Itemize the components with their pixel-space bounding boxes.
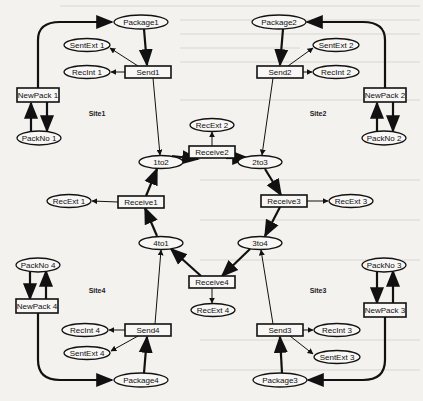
places: Package1 Package2 Package3 Package4 Sent… [16, 15, 406, 387]
svg-text:RecExt 4: RecExt 4 [197, 306, 230, 315]
place-packno2: PackNo 2 [362, 131, 406, 145]
svg-text:Package4: Package4 [123, 376, 159, 385]
svg-text:RecInt 3: RecInt 3 [322, 326, 352, 335]
svg-text:RecExt 3: RecExt 3 [335, 197, 368, 206]
svg-text:Receive1: Receive1 [124, 198, 158, 207]
svg-text:RecExt 1: RecExt 1 [53, 197, 86, 206]
transition-newpack3: NewPack 3 [364, 303, 406, 317]
place-recint1: RecInt 1 [64, 66, 110, 79]
place-package2: Package2 [252, 15, 306, 29]
place-package4: Package4 [114, 373, 168, 387]
transition-receive3: Receive3 [261, 195, 307, 207]
svg-text:SentExt 1: SentExt 1 [70, 41, 105, 50]
place-recext1: RecExt 1 [47, 195, 91, 208]
site-label: Site4 [89, 287, 106, 294]
svg-text:NewPack 1: NewPack 1 [18, 91, 59, 100]
svg-text:4to1: 4to1 [153, 239, 169, 248]
place-2to3: 2to3 [238, 156, 282, 169]
svg-text:3to4: 3to4 [252, 239, 268, 248]
transition-newpack4: NewPack 4 [16, 299, 58, 313]
svg-text:NewPack 3: NewPack 3 [365, 306, 406, 315]
svg-text:RecInt 4: RecInt 4 [70, 326, 100, 335]
svg-text:Package3: Package3 [262, 376, 298, 385]
svg-text:2to3: 2to3 [252, 158, 268, 167]
place-sentext4: SentExt 4 [64, 347, 110, 360]
transition-newpack1: NewPack 1 [17, 88, 59, 102]
place-packno4: PackNo 4 [16, 258, 60, 272]
svg-text:Receive4: Receive4 [195, 278, 229, 287]
transition-send2: Send2 [257, 66, 303, 78]
place-4to1: 4to1 [139, 237, 183, 250]
place-1to2: 1to2 [139, 156, 183, 169]
svg-text:Package1: Package1 [123, 18, 159, 27]
svg-text:PackNo 2: PackNo 2 [367, 134, 402, 143]
transition-receive1: Receive1 [118, 196, 164, 208]
transition-send3: Send3 [257, 324, 303, 336]
svg-text:PackNo 1: PackNo 1 [22, 134, 57, 143]
svg-text:SentExt 2: SentExt 2 [319, 41, 354, 50]
place-recint4: RecInt 4 [62, 324, 108, 337]
place-packno1: PackNo 1 [17, 131, 61, 145]
svg-text:RecInt 1: RecInt 1 [72, 68, 102, 77]
place-3to4: 3to4 [238, 237, 282, 250]
transition-receive2: Receive2 [189, 146, 235, 158]
place-recext3: RecExt 3 [329, 195, 373, 208]
transition-newpack2: NewPack 2 [364, 88, 406, 102]
svg-text:NewPack 2: NewPack 2 [365, 91, 406, 100]
svg-text:PackNo 4: PackNo 4 [21, 261, 56, 270]
svg-text:NewPack 4: NewPack 4 [17, 302, 58, 311]
transition-send1: Send1 [125, 66, 171, 78]
place-recext4: RecExt 4 [191, 304, 235, 317]
place-package1: Package1 [114, 15, 168, 29]
svg-text:Receive3: Receive3 [267, 197, 301, 206]
petri-net-diagram: Site1 Site2 Site3 Site4 Package1 Package… [0, 0, 423, 401]
svg-text:SentExt 3: SentExt 3 [320, 353, 355, 362]
svg-text:RecInt 2: RecInt 2 [321, 68, 351, 77]
site-label: Site2 [310, 110, 327, 117]
svg-text:Package2: Package2 [261, 18, 297, 27]
site-label: Site1 [89, 110, 106, 117]
place-recext2: RecExt 2 [190, 119, 234, 132]
place-packno3: PackNo 3 [362, 258, 406, 272]
place-package3: Package3 [253, 373, 307, 387]
svg-text:Send4: Send4 [136, 326, 160, 335]
svg-text:Send3: Send3 [268, 326, 292, 335]
svg-text:RecExt 2: RecExt 2 [196, 121, 229, 130]
svg-text:PackNo 3: PackNo 3 [367, 261, 402, 270]
svg-text:SentExt 4: SentExt 4 [70, 349, 105, 358]
svg-text:Receive2: Receive2 [195, 148, 229, 157]
site-label: Site3 [310, 287, 327, 294]
place-sentext2: SentExt 2 [313, 39, 359, 52]
svg-text:Send2: Send2 [268, 68, 292, 77]
place-recint3: RecInt 3 [314, 324, 360, 337]
place-sentext3: SentExt 3 [314, 351, 360, 364]
transition-send4: Send4 [125, 324, 171, 336]
place-recint2: RecInt 2 [313, 66, 359, 79]
place-sentext1: SentExt 1 [64, 39, 110, 52]
svg-text:1to2: 1to2 [153, 158, 169, 167]
transition-receive4: Receive4 [189, 276, 235, 288]
svg-text:Send1: Send1 [136, 68, 160, 77]
